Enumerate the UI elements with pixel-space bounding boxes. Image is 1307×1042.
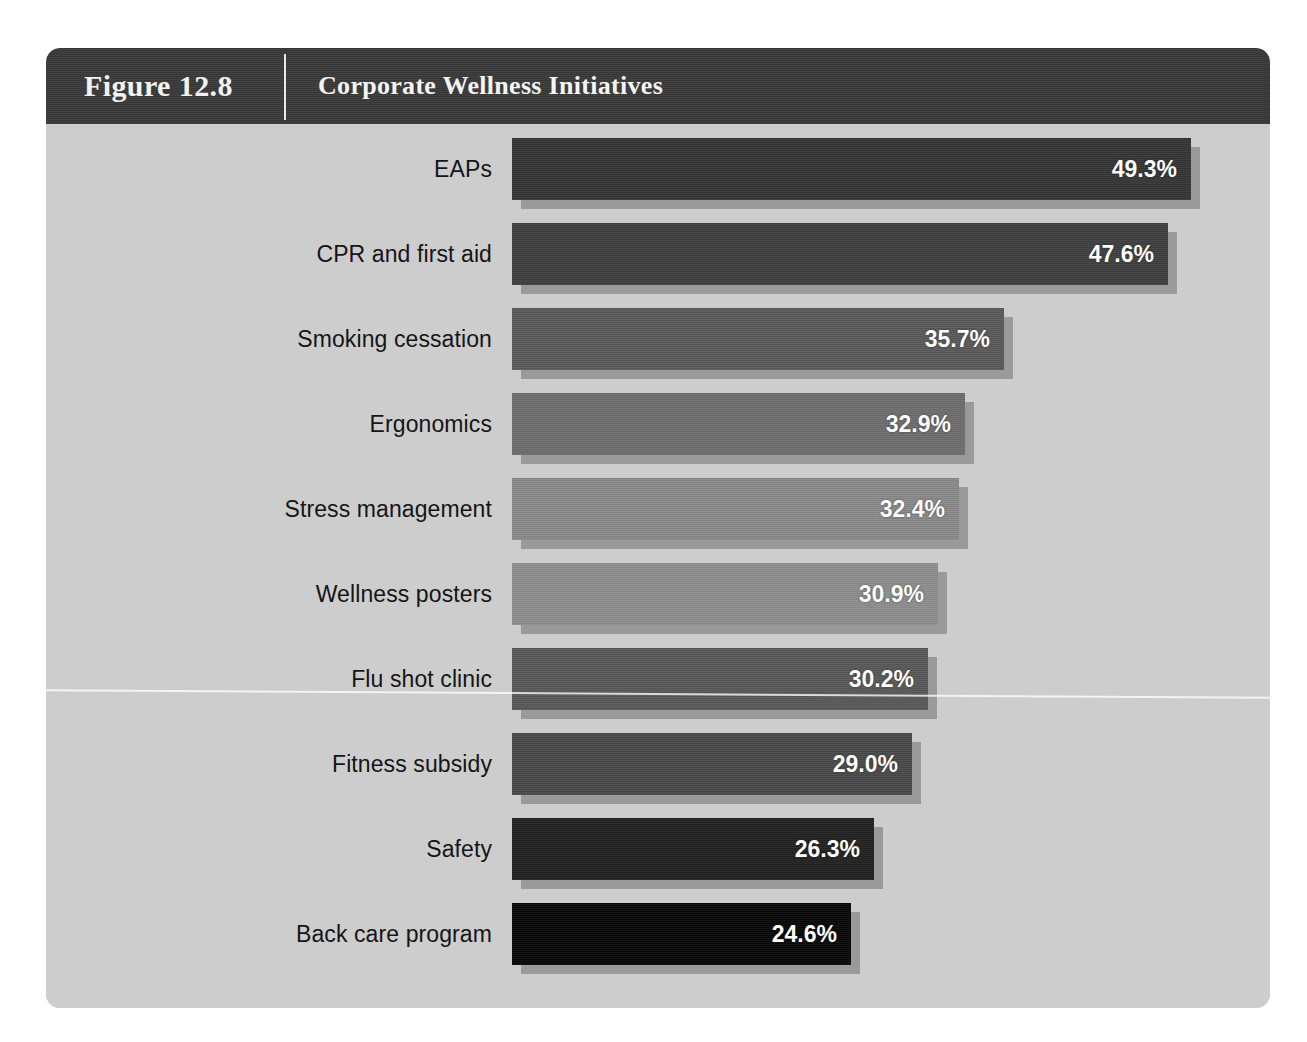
bar-value-label: 32.9% (886, 411, 951, 438)
bar-track: 30.2% (512, 648, 1270, 710)
bar-category-label: Flu shot clinic (46, 666, 492, 693)
bar-fill[interactable]: 24.6% (512, 903, 851, 965)
bar-category-label: EAPs (46, 156, 492, 183)
figure-number: Figure 12.8 (84, 69, 233, 103)
bar-value-label: 32.4% (880, 496, 945, 523)
bar-row: Wellness posters30.9% (46, 563, 1270, 625)
chart-plot-area: EAPs49.3%CPR and first aid47.6%Smoking c… (46, 124, 1270, 1008)
bar-fill[interactable]: 29.0% (512, 733, 912, 795)
bar-value-label: 29.0% (833, 751, 898, 778)
bar-fill[interactable]: 26.3% (512, 818, 874, 880)
bar-row: Fitness subsidy29.0% (46, 733, 1270, 795)
bar-track: 30.9% (512, 563, 1270, 625)
bar-value-label: 35.7% (925, 326, 990, 353)
bar-row: CPR and first aid47.6% (46, 223, 1270, 285)
bar-track: 29.0% (512, 733, 1270, 795)
bar-fill[interactable]: 32.4% (512, 478, 959, 540)
figure-title: Corporate Wellness Initiatives (318, 71, 663, 101)
bar-track: 32.9% (512, 393, 1270, 455)
bar-value-label: 30.9% (859, 581, 924, 608)
bar-series-container: EAPs49.3%CPR and first aid47.6%Smoking c… (46, 138, 1270, 994)
bar-track: 49.3% (512, 138, 1270, 200)
bar-row: Stress management32.4% (46, 478, 1270, 540)
bar-category-label: Wellness posters (46, 581, 492, 608)
bar-fill[interactable]: 49.3% (512, 138, 1191, 200)
bar-track: 24.6% (512, 903, 1270, 965)
bar-row: Flu shot clinic30.2% (46, 648, 1270, 710)
bar-value-label: 30.2% (849, 666, 914, 693)
bar-fill[interactable]: 35.7% (512, 308, 1004, 370)
bar-category-label: CPR and first aid (46, 241, 492, 268)
bar-value-label: 26.3% (795, 836, 860, 863)
bar-category-label: Ergonomics (46, 411, 492, 438)
bar-row: Smoking cessation35.7% (46, 308, 1270, 370)
bar-fill[interactable]: 47.6% (512, 223, 1168, 285)
bar-row: Ergonomics32.9% (46, 393, 1270, 455)
bar-fill[interactable]: 30.9% (512, 563, 938, 625)
bar-track: 26.3% (512, 818, 1270, 880)
bar-row: Back care program24.6% (46, 903, 1270, 965)
figure-header-band: Figure 12.8 Corporate Wellness Initiativ… (46, 48, 1270, 124)
bar-category-label: Fitness subsidy (46, 751, 492, 778)
bar-fill[interactable]: 30.2% (512, 648, 928, 710)
header-divider (284, 54, 286, 120)
bar-category-label: Smoking cessation (46, 326, 492, 353)
bar-value-label: 24.6% (772, 921, 837, 948)
bar-fill[interactable]: 32.9% (512, 393, 965, 455)
bar-row: EAPs49.3% (46, 138, 1270, 200)
figure-card: Figure 12.8 Corporate Wellness Initiativ… (46, 48, 1270, 1008)
bar-track: 47.6% (512, 223, 1270, 285)
bar-value-label: 49.3% (1112, 156, 1177, 183)
bar-value-label: 47.6% (1089, 241, 1154, 268)
bar-category-label: Back care program (46, 921, 492, 948)
bar-category-label: Safety (46, 836, 492, 863)
bar-row: Safety26.3% (46, 818, 1270, 880)
bar-category-label: Stress management (46, 496, 492, 523)
bar-track: 32.4% (512, 478, 1270, 540)
bar-track: 35.7% (512, 308, 1270, 370)
